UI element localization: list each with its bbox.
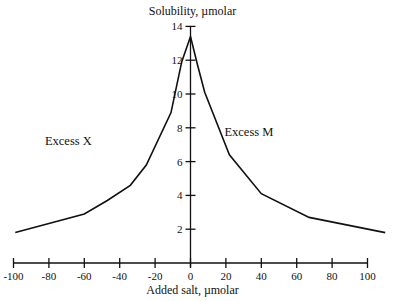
annotation-label: Excess X — [45, 134, 92, 148]
annotation-label: Excess M — [224, 125, 273, 139]
x-tick-label: 60 — [291, 270, 303, 282]
x-axis-title: Added salt, µmolar — [146, 283, 239, 297]
y-axis-title: Solubility, µmolar — [149, 4, 236, 18]
y-ticks: 2468101214 — [172, 20, 196, 235]
x-tick-label: 20 — [220, 270, 232, 282]
y-tick-label: 14 — [172, 20, 184, 32]
y-tick-label: 2 — [177, 223, 183, 235]
y-tick-label: 8 — [177, 122, 183, 134]
x-tick-label: 0 — [188, 270, 194, 282]
x-tick-label: -40 — [112, 270, 127, 282]
axes: -100-80-60-40-20020406080100 2468101214 — [3, 20, 376, 282]
x-tick-label: 40 — [256, 270, 268, 282]
y-tick-label: 6 — [177, 156, 183, 168]
x-ticks: -100-80-60-40-20020406080100 — [3, 258, 376, 282]
x-tick-label: -80 — [42, 270, 57, 282]
x-tick-label: 80 — [327, 270, 339, 282]
x-tick-label: 100 — [359, 270, 376, 282]
y-tick-label: 4 — [177, 189, 183, 201]
x-tick-label: -20 — [148, 270, 163, 282]
x-tick-label: -60 — [77, 270, 92, 282]
x-tick-label: -100 — [3, 270, 24, 282]
chart: -100-80-60-40-20020406080100 2468101214 … — [0, 0, 393, 301]
